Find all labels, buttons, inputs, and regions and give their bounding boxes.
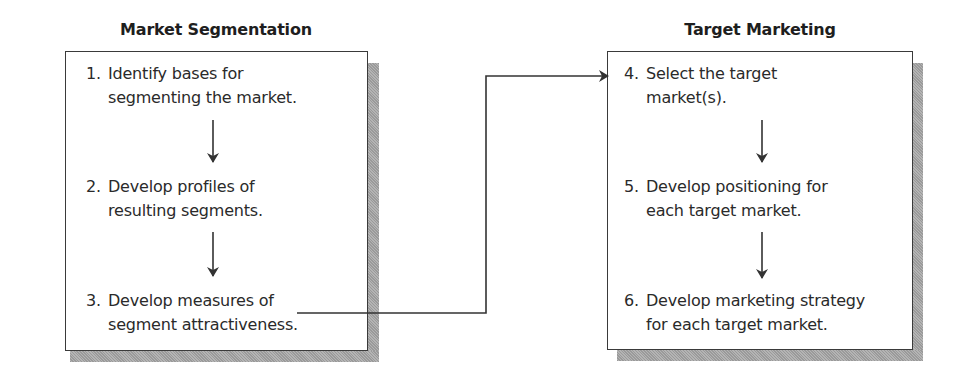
connector-layer [0,0,964,388]
connector-arrow-icon [297,76,608,313]
